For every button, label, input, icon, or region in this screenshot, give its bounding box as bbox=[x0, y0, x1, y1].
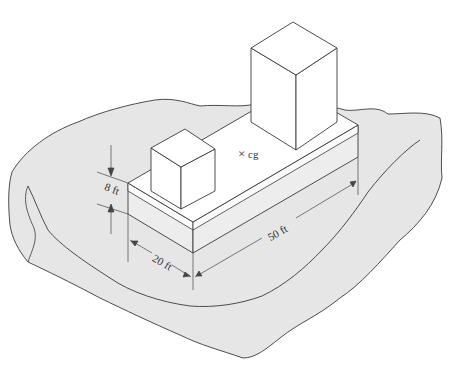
cg-label: cg bbox=[248, 148, 259, 160]
figure-canvas: 8 ft 20 ft 50 ft × cg bbox=[0, 0, 467, 380]
foundation-diagram: 8 ft 20 ft 50 ft × cg bbox=[0, 0, 467, 380]
cg-marker-icon: × bbox=[238, 146, 245, 161]
